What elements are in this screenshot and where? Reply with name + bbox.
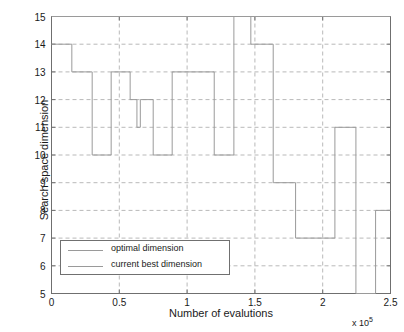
chart-figure <box>0 0 404 332</box>
legend-swatch-line-icon <box>68 266 103 267</box>
figure-background <box>0 0 404 332</box>
x-tick-label: 0 <box>32 297 72 308</box>
chart-legend: optimal dimension current best dimension <box>60 240 230 275</box>
x-tick-label: 2 <box>303 297 343 308</box>
y-tick-label: 13 <box>24 66 46 77</box>
x-axis-multiplier-base: x 10 <box>352 318 369 328</box>
legend-label: current best dimension <box>111 259 202 269</box>
x-axis-label: Number of evalutions <box>51 307 391 319</box>
legend-item-current-best-dimension: current best dimension <box>61 258 229 275</box>
x-axis-multiplier: x 105 <box>352 316 373 328</box>
x-tick-label: 1.5 <box>235 297 275 308</box>
x-axis-multiplier-exponent: 5 <box>369 316 373 323</box>
legend-item-optimal-dimension: optimal dimension <box>61 242 229 259</box>
legend-swatch-line-icon <box>68 250 103 251</box>
x-tick-label: 0.5 <box>99 297 139 308</box>
y-tick-label: 6 <box>24 260 46 271</box>
y-tick-label: 10 <box>24 150 46 161</box>
y-tick-label: 15 <box>24 11 46 22</box>
legend-label: optimal dimension <box>111 243 184 253</box>
y-tick-label: 14 <box>24 39 46 50</box>
y-tick-label: 8 <box>24 205 46 216</box>
y-tick-label: 11 <box>24 122 46 133</box>
y-tick-label: 7 <box>24 233 46 244</box>
x-tick-label: 2.5 <box>371 297 404 308</box>
x-tick-label: 1 <box>167 297 207 308</box>
y-tick-label: 12 <box>24 94 46 105</box>
y-tick-label: 9 <box>24 177 46 188</box>
